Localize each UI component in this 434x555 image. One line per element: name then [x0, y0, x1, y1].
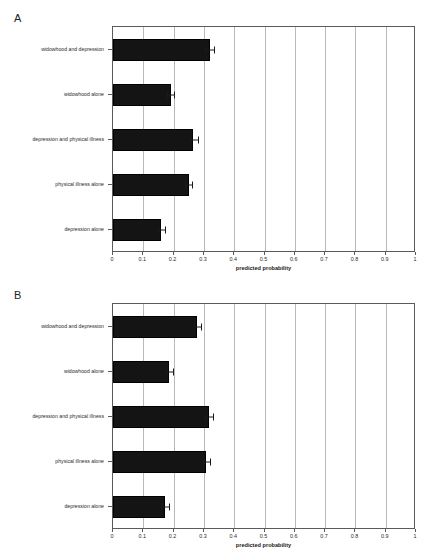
category-label: physical illness alone [0, 181, 104, 187]
x-tick-label: 0.7 [320, 533, 328, 540]
bar [113, 361, 169, 383]
bar-group [113, 219, 416, 241]
error-bar-cap [174, 91, 175, 98]
x-tick-label: 0.8 [351, 533, 359, 540]
panel-a-category-labels: widowhood and depressionwidowhood aloned… [0, 26, 108, 252]
error-bar [166, 371, 173, 372]
x-tick-mark [415, 529, 416, 532]
x-tick-label: 0.7 [320, 256, 328, 263]
error-bar-cap [169, 504, 170, 511]
x-tick-label: 0.6 [290, 256, 298, 263]
panel-b-plot-area [112, 303, 415, 529]
error-bar-cap [158, 227, 159, 234]
x-tick-mark [112, 252, 113, 255]
bar-group [113, 39, 416, 61]
category-label: widowhood alone [0, 91, 104, 97]
x-tick-mark [142, 252, 143, 255]
y-tick-mark [108, 139, 112, 140]
bar [113, 219, 161, 241]
error-bar [203, 462, 210, 463]
x-tick-label: 0.5 [260, 256, 268, 263]
x-tick-mark [354, 252, 355, 255]
error-bar-cap [190, 137, 191, 144]
x-tick-mark [294, 529, 295, 532]
category-label: physical illness alone [0, 458, 104, 464]
bar [113, 406, 209, 428]
error-bar-cap [167, 91, 168, 98]
error-bar-cap [201, 323, 202, 330]
x-tick-label: 0.5 [260, 533, 268, 540]
category-label: depression alone [0, 226, 104, 232]
error-bar [167, 94, 174, 95]
x-tick-label: 0.6 [290, 533, 298, 540]
x-tick-mark [324, 252, 325, 255]
bar [113, 174, 189, 196]
bar-group [113, 451, 416, 473]
y-tick-mark [108, 506, 112, 507]
panel-b: B widowhood and depressionwidowhood alon… [0, 281, 434, 553]
y-tick-mark [108, 326, 112, 327]
bar [113, 39, 210, 61]
y-tick-mark [108, 461, 112, 462]
x-tick-label: 0.4 [229, 256, 237, 263]
y-tick-mark [108, 229, 112, 230]
error-bar [205, 49, 214, 50]
category-label: widowhood and depression [0, 46, 104, 52]
x-tick-label: 0.8 [351, 256, 359, 263]
x-tick-mark [173, 529, 174, 532]
error-bar-cap [161, 504, 162, 511]
panel-a-letter: A [14, 12, 22, 24]
error-bar-cap [210, 459, 211, 466]
x-tick-label: 0.1 [139, 533, 147, 540]
x-tick-mark [233, 529, 234, 532]
category-label: depression and physical illness [0, 413, 104, 419]
x-tick-label: 1 [414, 256, 417, 263]
y-tick-mark [108, 184, 112, 185]
error-bar [161, 507, 169, 508]
bar-group [113, 496, 416, 518]
bar-group [113, 84, 416, 106]
error-bar-cap [185, 182, 186, 189]
panel-b-x-axis-title: predicted probability [112, 542, 415, 548]
x-tick-mark [203, 529, 204, 532]
x-tick-label: 0 [111, 256, 114, 263]
panel-a-x-axis-title: predicted probability [112, 265, 415, 271]
error-bar-cap [165, 227, 166, 234]
bar-group [113, 406, 416, 428]
error-bar-cap [166, 368, 167, 375]
bar-group [113, 129, 416, 151]
x-tick-mark [324, 529, 325, 532]
panel-a: A widowhood and depressionwidowhood alon… [0, 4, 434, 276]
x-tick-mark [264, 529, 265, 532]
category-label: depression and physical illness [0, 136, 104, 142]
x-tick-label: 0.9 [381, 533, 389, 540]
error-bar [205, 417, 213, 418]
error-bar-cap [203, 459, 204, 466]
bar-group [113, 174, 416, 196]
bar [113, 496, 165, 518]
bar [113, 316, 197, 338]
panel-a-plot-area [112, 26, 415, 252]
panel-b-letter: B [14, 289, 22, 301]
bar [113, 451, 206, 473]
error-bar-cap [213, 414, 214, 421]
error-bar-cap [214, 46, 215, 53]
bar-group [113, 361, 416, 383]
category-label: widowhood alone [0, 368, 104, 374]
panel-b-x-axis: 00.10.20.30.40.50.60.70.80.91 [112, 529, 415, 543]
panel-a-x-axis: 00.10.20.30.40.50.60.70.80.91 [112, 252, 415, 266]
x-tick-label: 0 [111, 533, 114, 540]
bar [113, 129, 193, 151]
y-tick-mark [108, 94, 112, 95]
error-bar-cap [173, 368, 174, 375]
x-tick-mark [233, 252, 234, 255]
error-bar-cap [198, 137, 199, 144]
panel-b-category-labels: widowhood and depressionwidowhood aloned… [0, 303, 108, 529]
x-tick-mark [354, 529, 355, 532]
x-tick-mark [112, 529, 113, 532]
x-tick-label: 0.2 [169, 533, 177, 540]
error-bar-cap [192, 182, 193, 189]
error-bar [185, 185, 192, 186]
category-label: widowhood and depression [0, 323, 104, 329]
x-tick-mark [385, 529, 386, 532]
